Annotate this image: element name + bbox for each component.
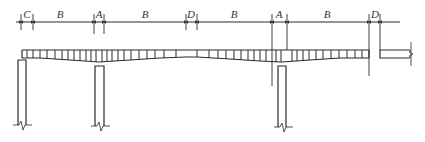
pier-2 [91,66,110,131]
bridge-drawing [0,0,425,142]
label-segment-d-2: D [371,9,379,20]
label-segment-c: C [23,9,30,20]
adjacent-span-stub [380,42,413,66]
pier-1 [13,60,32,130]
label-segment-a-2: A [276,9,283,20]
bridge-elevation-diagram: C B A B D B A B D [0,0,425,142]
label-segment-b-3: B [231,9,238,20]
label-segment-a-1: A [96,9,103,20]
label-segment-b-4: B [324,9,331,20]
label-segment-b-2: B [142,9,149,20]
label-segment-b-1: B [57,9,64,20]
label-segment-d-1: D [187,9,195,20]
pier-3 [274,66,293,132]
